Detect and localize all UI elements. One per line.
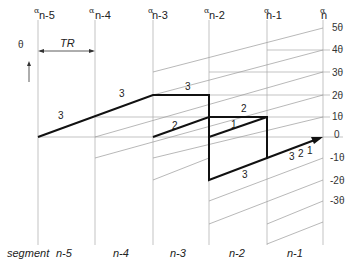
svg-text:2θ: 2θ xyxy=(332,90,344,101)
svg-text:n-5: n-5 xyxy=(56,247,73,259)
svg-text:n-2: n-2 xyxy=(229,247,245,259)
vertical-lines xyxy=(38,20,323,245)
arrow-left-icon xyxy=(38,49,44,53)
alpha-headers: α n-5 α n-4 α n-3 α n-2 α n-1 α n xyxy=(34,6,327,21)
svg-text:n-5: n-5 xyxy=(39,9,55,21)
svg-text:1θ: 1θ xyxy=(332,111,344,122)
svg-text:-3θ: -3θ xyxy=(330,195,345,206)
svg-text:5θ: 5θ xyxy=(332,22,344,33)
arrow-right-icon xyxy=(89,49,95,53)
svg-text:segment: segment xyxy=(7,247,50,259)
svg-text:3θ: 3θ xyxy=(332,67,344,78)
tr-dimension: TR xyxy=(38,37,95,53)
svg-text:n: n xyxy=(321,9,327,21)
segment-footer: segment n-5 n-4 n-3 n-2 n-1 xyxy=(7,247,303,259)
bold-path xyxy=(38,95,323,180)
theta-axis-label: θ xyxy=(18,39,24,50)
svg-text:3: 3 xyxy=(289,151,295,162)
level-labels: 5θ 4θ 3θ 2θ 1θ 0 -1θ -2θ -3θ xyxy=(330,22,345,206)
svg-text:n-4: n-4 xyxy=(113,247,129,259)
svg-text:n-3: n-3 xyxy=(152,9,168,21)
svg-text:n-4: n-4 xyxy=(95,9,111,21)
arrow-up-icon xyxy=(27,61,31,66)
svg-text:1: 1 xyxy=(231,119,237,130)
svg-text:4θ: 4θ xyxy=(332,44,344,55)
arrow-head-icon xyxy=(311,137,323,144)
svg-text:2: 2 xyxy=(172,120,178,131)
svg-text:3: 3 xyxy=(242,169,248,180)
svg-text:-1θ: -1θ xyxy=(330,152,345,163)
tr-label: TR xyxy=(60,37,75,49)
svg-text:1: 1 xyxy=(307,145,313,156)
svg-text:0: 0 xyxy=(334,129,340,140)
svg-text:-2θ: -2θ xyxy=(330,175,345,186)
svg-text:n-3: n-3 xyxy=(170,247,187,259)
svg-text:3: 3 xyxy=(119,88,125,99)
svg-text:3: 3 xyxy=(185,81,191,92)
theta-axis: θ xyxy=(18,39,31,82)
svg-text:n-1: n-1 xyxy=(287,247,303,259)
svg-text:2: 2 xyxy=(298,148,304,159)
svg-text:n-1: n-1 xyxy=(266,9,282,21)
svg-text:2: 2 xyxy=(241,103,247,114)
svg-text:3: 3 xyxy=(58,110,64,121)
timing-diagram: TR θ α n-5 α n-4 α n-3 α n-2 α n-1 α n 5… xyxy=(0,0,358,267)
svg-text:n-2: n-2 xyxy=(209,9,225,21)
